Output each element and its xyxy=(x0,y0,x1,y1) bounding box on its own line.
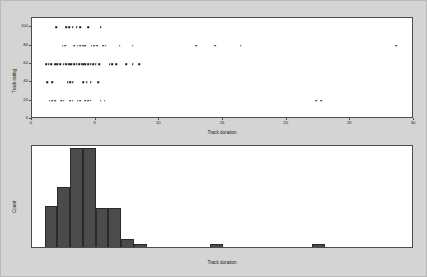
scatter-plot-area[interactable] xyxy=(31,17,413,118)
histogram-bar xyxy=(70,148,83,248)
scatter-point xyxy=(57,63,59,65)
y-tick-label: 20 xyxy=(9,98,28,102)
scatter-point xyxy=(109,63,111,65)
y-tick-label: 80 xyxy=(9,42,28,46)
histogram-bar xyxy=(389,247,402,248)
histogram-bar xyxy=(121,239,134,248)
scatter-point xyxy=(138,63,140,65)
scatter-point xyxy=(59,63,61,65)
scatter-point xyxy=(85,100,87,102)
scatter-panel: 051015202530020406080100 Track rating Tr… xyxy=(1,1,427,141)
scatter-point xyxy=(111,63,113,65)
scatter-point xyxy=(76,26,78,28)
y-tick-label: 0 xyxy=(9,116,28,120)
scatter-point xyxy=(115,63,117,65)
histogram-x-axis-title: Track duration xyxy=(207,261,236,266)
y-tick-mark xyxy=(29,26,31,27)
scatter-point xyxy=(49,100,51,102)
y-tick-mark xyxy=(29,63,31,64)
scatter-point xyxy=(95,63,97,65)
histogram-bar xyxy=(108,208,121,248)
histogram-bar xyxy=(223,247,236,248)
scatter-point xyxy=(97,81,99,83)
scatter-point xyxy=(72,81,74,83)
y-tick-mark xyxy=(29,118,31,119)
x-tick-label: 30 xyxy=(411,121,416,125)
scatter-point xyxy=(132,63,134,65)
histogram-bar xyxy=(312,244,325,248)
scatter-point xyxy=(90,81,92,83)
scatter-point xyxy=(73,45,75,47)
y-tick-label: 100 xyxy=(9,24,28,28)
scatter-point xyxy=(63,100,65,102)
y-tick-mark xyxy=(29,81,31,82)
scatter-point xyxy=(86,81,88,83)
scatter-point xyxy=(96,45,98,47)
x-tick-label: 20 xyxy=(283,121,288,125)
scatter-point xyxy=(68,63,70,65)
scatter-point xyxy=(82,81,84,83)
scatter-point xyxy=(62,45,64,47)
scatter-point xyxy=(54,63,56,65)
scatter-point xyxy=(125,63,127,65)
scatter-point xyxy=(69,81,71,83)
scatter-point xyxy=(87,26,89,28)
scatter-point xyxy=(46,81,48,83)
scatter-point xyxy=(52,81,54,83)
scatter-y-axis-title: Track rating xyxy=(13,69,18,93)
scatter-point xyxy=(99,63,101,65)
scatter-point xyxy=(100,26,102,28)
scatter-point xyxy=(82,45,84,47)
scatter-point xyxy=(104,100,106,102)
scatter-point xyxy=(85,63,87,65)
scatter-point xyxy=(72,100,74,102)
scatter-point xyxy=(76,63,78,65)
scatter-point xyxy=(64,45,66,47)
scatter-point xyxy=(80,45,82,47)
x-tick-label: 0 xyxy=(30,121,32,125)
scatter-point xyxy=(91,45,93,47)
scatter-point xyxy=(50,63,52,65)
scatter-point xyxy=(48,63,50,65)
scatter-point xyxy=(395,45,397,47)
histogram-plot-area[interactable] xyxy=(31,145,413,248)
scatter-point xyxy=(45,63,47,65)
histogram-bar xyxy=(83,148,96,248)
x-tick-label: 15 xyxy=(220,121,225,125)
histogram-panel: 0510152025300510152025303540 Count Track… xyxy=(1,141,427,277)
scatter-point xyxy=(87,100,89,102)
scatter-point xyxy=(195,45,197,47)
x-tick-label: 5 xyxy=(93,121,95,125)
scatter-point xyxy=(80,100,82,102)
scatter-point xyxy=(54,100,56,102)
scatter-point xyxy=(90,63,92,65)
histogram-bar xyxy=(210,244,223,248)
scatter-point xyxy=(77,45,79,47)
scatter-point xyxy=(71,63,73,65)
scatter-point xyxy=(240,45,242,47)
scatter-point xyxy=(52,100,54,102)
scatter-point xyxy=(66,63,68,65)
scatter-point xyxy=(68,26,70,28)
x-tick-label: 10 xyxy=(156,121,161,125)
scatter-point xyxy=(119,45,121,47)
x-tick-label: 25 xyxy=(347,121,352,125)
scatter-point xyxy=(320,100,322,102)
scatter-point xyxy=(90,100,92,102)
scatter-point xyxy=(100,100,102,102)
scatter-point xyxy=(215,45,217,47)
scatter-point xyxy=(63,63,65,65)
scatter-point xyxy=(92,63,94,65)
scatter-point xyxy=(55,26,57,28)
scatter-point xyxy=(73,63,75,65)
scatter-point xyxy=(105,45,107,47)
histogram-bar xyxy=(96,208,109,248)
histogram-bar xyxy=(57,187,70,248)
histogram-bar xyxy=(198,247,211,248)
scatter-point xyxy=(60,100,62,102)
scatter-point xyxy=(132,45,134,47)
scatter-point xyxy=(77,100,79,102)
scatter-point xyxy=(82,63,84,65)
scatter-point xyxy=(67,81,69,83)
y-tick-mark xyxy=(29,45,31,46)
